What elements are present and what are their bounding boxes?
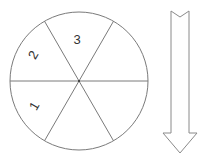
- spinner-center: [78, 80, 80, 82]
- sector-label-3: 3: [73, 32, 80, 47]
- sector-label-2: 2: [25, 48, 42, 62]
- sector-label-1: 1: [26, 99, 43, 113]
- diagram-canvas: 3 2 1: [0, 0, 207, 167]
- down-arrow-icon: [163, 11, 197, 153]
